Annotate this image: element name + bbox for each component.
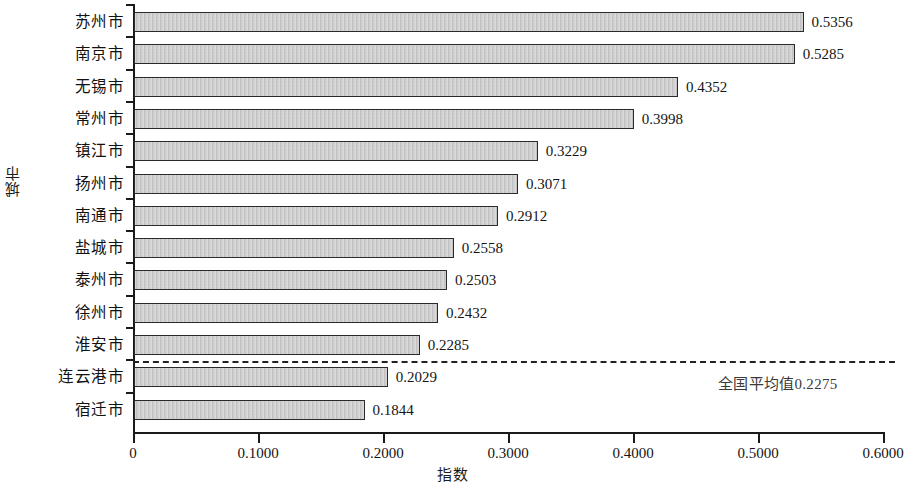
bar-chart: 城市 苏州市南京市无锡市常州市镇江市扬州市南通市盐城市泰州市徐州市淮安市连云港市…: [0, 0, 906, 485]
category-label: 常州市: [75, 109, 125, 129]
national-average-label: 全国平均值0.2275: [718, 372, 838, 393]
x-axis-tick-label: 0.3000: [468, 445, 548, 462]
bar-value-label: 0.2503: [455, 270, 496, 290]
category-label: 徐州市: [75, 303, 125, 323]
y-axis-tick: [126, 36, 133, 38]
y-axis-tick: [126, 166, 133, 168]
x-axis-tick: [508, 434, 510, 443]
y-axis-tick: [126, 101, 133, 103]
category-label: 扬州市: [75, 174, 125, 194]
y-axis-tick: [126, 262, 133, 264]
y-axis-tick: [126, 230, 133, 232]
y-axis-tick: [126, 198, 133, 200]
plot-area: 0.53560.52850.43520.39980.32290.30710.29…: [133, 4, 883, 432]
bar: [134, 367, 388, 387]
category-label: 宿迁市: [75, 400, 125, 420]
y-axis-tick: [126, 359, 133, 361]
category-label: 盐城市: [75, 238, 125, 258]
x-axis-tick-label: 0.2000: [343, 445, 423, 462]
y-axis-title: 城市: [2, 165, 32, 197]
bar: [134, 238, 454, 258]
bar-value-label: 0.5356: [812, 12, 853, 32]
bar-value-label: 0.2912: [506, 206, 547, 226]
bar: [134, 206, 498, 226]
category-label: 南通市: [75, 206, 125, 226]
bar-value-label: 0.2029: [396, 367, 437, 387]
y-axis-tick: [126, 4, 133, 6]
x-axis-tick-label: 0.6000: [843, 445, 906, 462]
bar-value-label: 0.2432: [446, 303, 487, 323]
x-axis-tick-label: 0.4000: [593, 445, 673, 462]
bar: [134, 77, 678, 97]
bar-value-label: 0.1844: [373, 400, 414, 420]
bar: [134, 44, 795, 64]
y-axis-tick: [126, 69, 133, 71]
bar: [134, 303, 438, 323]
category-label: 镇江市: [75, 141, 125, 161]
bar: [134, 141, 538, 161]
national-average-line: [133, 361, 895, 363]
x-axis-tick: [133, 434, 135, 443]
bar: [134, 109, 634, 129]
bar-value-label: 0.4352: [686, 77, 727, 97]
x-axis-tick-label: 0.5000: [718, 445, 798, 462]
y-axis-tick: [126, 327, 133, 329]
bar: [134, 12, 804, 32]
category-label: 南京市: [75, 44, 125, 64]
category-label: 无锡市: [75, 77, 125, 97]
y-axis-tick: [126, 392, 133, 394]
x-axis-tick-label: 0.1000: [218, 445, 298, 462]
y-axis-tick: [126, 133, 133, 135]
bar: [134, 335, 420, 355]
x-axis-tick: [383, 434, 385, 443]
bar: [134, 270, 447, 290]
x-axis-title: 指数: [0, 463, 906, 484]
bar: [134, 174, 518, 194]
bar: [134, 400, 365, 420]
bar-value-label: 0.2558: [462, 238, 503, 258]
x-axis-tick: [258, 434, 260, 443]
category-label: 苏州市: [75, 12, 125, 32]
bar-value-label: 0.3229: [546, 141, 587, 161]
category-label: 泰州市: [75, 270, 125, 290]
x-axis-tick-label: 0: [93, 445, 173, 462]
x-axis-tick: [758, 434, 760, 443]
bar-value-label: 0.2285: [428, 335, 469, 355]
category-label: 连云港市: [58, 367, 124, 387]
x-axis-tick: [883, 434, 885, 443]
x-axis-tick: [633, 434, 635, 443]
bar-value-label: 0.5285: [803, 44, 844, 64]
category-label: 淮安市: [75, 335, 125, 355]
y-axis-tick: [126, 295, 133, 297]
bar-value-label: 0.3998: [642, 109, 683, 129]
bar-value-label: 0.3071: [526, 174, 567, 194]
